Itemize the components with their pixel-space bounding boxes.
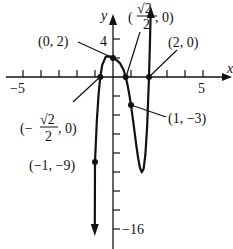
label-neg1-neg9: (−1, −9) [29, 158, 75, 174]
svg-text:2: 2 [45, 129, 52, 144]
label-1-neg3: (1, −3) [168, 111, 207, 127]
x-tick-label-neg5: −5 [10, 81, 25, 96]
curve-down-arrow-icon [91, 224, 99, 236]
y-tick-label-neg16: −16 [122, 222, 144, 237]
svg-text:, 0): , 0) [58, 121, 77, 137]
label-neg-root2-over-2: (− √2 2 , 0) [20, 112, 77, 144]
y-axis-ticks [113, 39, 120, 229]
svg-text:√2: √2 [40, 112, 55, 127]
svg-text:(−: (− [20, 121, 33, 137]
svg-text:, 0): , 0) [155, 10, 174, 26]
svg-text:√2: √2 [137, 1, 152, 16]
polynomial-graph: y x −5 5 4 −16 (0, 2) (2, 0) (1, −3) (−1… [0, 0, 233, 249]
y-tick-label-4: 4 [100, 34, 107, 49]
label-0-2: (0, 2) [38, 34, 69, 50]
y-axis-arrow-icon [109, 14, 117, 25]
x-axis-label: x [226, 61, 233, 76]
point-neg1-neg9 [92, 159, 98, 165]
point-root2-over-2 [123, 74, 129, 80]
svg-text:(: ( [128, 10, 133, 26]
label-2-0: (2, 0) [168, 35, 199, 51]
x-tick-label-5: 5 [198, 81, 205, 96]
svg-text:2: 2 [143, 17, 150, 32]
y-axis-label: y [99, 8, 108, 23]
